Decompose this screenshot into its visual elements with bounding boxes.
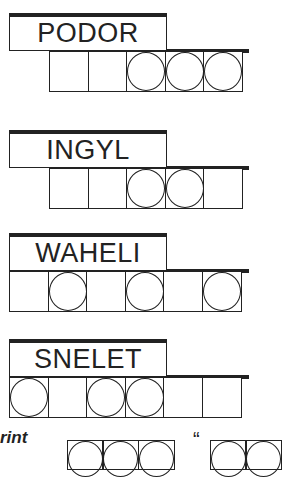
print-answer-label: rint	[0, 428, 27, 448]
answer-tiles-group-2	[211, 440, 282, 470]
letter-tile[interactable]	[9, 271, 49, 312]
answer-open-quote: “	[193, 428, 200, 451]
circled-letter-tile[interactable]	[126, 168, 166, 209]
answer-tile-row	[49, 168, 243, 209]
letter-tile[interactable]	[163, 271, 203, 312]
scrambled-word: PODOR	[9, 13, 167, 51]
circled-letter-tile[interactable]	[203, 51, 243, 92]
letter-tile[interactable]	[48, 377, 88, 418]
letter-tile[interactable]	[203, 168, 243, 209]
circled-letter-tile[interactable]	[165, 51, 205, 92]
answer-tile[interactable]	[102, 440, 139, 470]
circled-letter-tile[interactable]	[9, 377, 49, 418]
circled-letter-tile[interactable]	[125, 377, 165, 418]
answer-tile[interactable]	[138, 440, 175, 470]
circled-letter-tile[interactable]	[48, 271, 88, 312]
answer-tiles-group-1	[68, 440, 175, 470]
circled-letter-tile[interactable]	[165, 168, 205, 209]
answer-tile-row	[9, 377, 242, 418]
circled-letter-tile[interactable]	[86, 377, 126, 418]
circled-letter-tile[interactable]	[126, 51, 166, 92]
answer-tile[interactable]	[67, 440, 104, 470]
letter-tile[interactable]	[88, 168, 128, 209]
letter-tile[interactable]	[49, 168, 89, 209]
answer-tile[interactable]	[245, 440, 282, 470]
answer-tile[interactable]	[210, 440, 247, 470]
letter-tile[interactable]	[202, 377, 242, 418]
letter-tile[interactable]	[49, 51, 89, 92]
letter-tile[interactable]	[163, 377, 203, 418]
answer-tile-row	[9, 271, 242, 312]
scrambled-word: WAHELI	[9, 233, 167, 271]
scrambled-word: INGYL	[9, 130, 167, 168]
scrambled-word: SNELET	[9, 339, 167, 377]
letter-tile[interactable]	[88, 51, 128, 92]
letter-tile[interactable]	[86, 271, 126, 312]
circled-letter-tile[interactable]	[202, 271, 242, 312]
circled-letter-tile[interactable]	[125, 271, 165, 312]
answer-tile-row	[49, 51, 243, 92]
